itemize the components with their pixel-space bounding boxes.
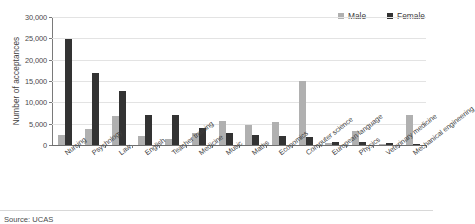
bar-female[interactable] [65, 39, 72, 145]
y-tick-mark [49, 145, 52, 146]
gridline [52, 81, 426, 82]
y-tick-label: 25,000 [25, 34, 47, 43]
y-tick-label: 30,000 [25, 13, 47, 22]
source-note: Source: UCAS [4, 215, 53, 224]
footer-divider [0, 210, 433, 211]
gridline [52, 60, 426, 61]
y-tick-label: 20,000 [25, 55, 47, 64]
bar-female[interactable] [92, 73, 99, 145]
bar-male[interactable] [379, 144, 386, 145]
bar-male[interactable] [138, 136, 145, 145]
y-tick-label: 5,000 [29, 119, 47, 128]
bar-group [52, 39, 79, 145]
bar-male[interactable] [58, 135, 65, 145]
bar-male[interactable] [272, 122, 279, 145]
x-axis-category-labels: NursingPsychologyLawEnglishTeacher train… [52, 148, 426, 208]
y-axis-title: Number of acceptances [12, 18, 26, 144]
y-tick-label: 10,000 [25, 98, 47, 107]
gridline [52, 17, 426, 18]
y-tick-mark [49, 17, 52, 18]
y-tick-label: 0 [43, 141, 47, 150]
y-tick-label: 15,000 [25, 77, 47, 86]
bar-female[interactable] [172, 115, 179, 145]
bar-male[interactable] [245, 125, 252, 145]
bar-female[interactable] [145, 115, 152, 145]
bar-group [79, 73, 106, 145]
gridline [52, 38, 426, 39]
